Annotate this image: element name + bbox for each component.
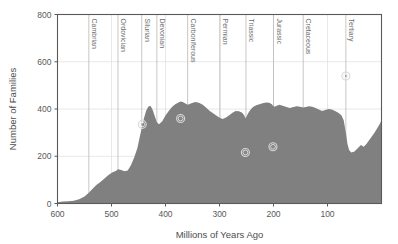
y-tick-label-200: 200	[37, 151, 51, 161]
period-label-cambrian: Cambrian	[91, 19, 98, 49]
x-tick-label-200: 200	[266, 209, 280, 219]
period-label-permian: Permian	[222, 19, 229, 45]
x-tick-label-400: 400	[158, 209, 172, 219]
y-tick-label-400: 400	[37, 104, 51, 114]
chart-canvas: CambrianOrdovicianSilurianDevonianCarbon…	[0, 0, 398, 244]
x-tick-label-600: 600	[50, 209, 64, 219]
y-tick-label-0: 0	[47, 199, 52, 209]
y-axis-title: Number of Families	[7, 68, 18, 151]
x-tick-label-500: 500	[104, 209, 118, 219]
x-tick-label-100: 100	[320, 209, 334, 219]
period-label-triassic: Triassic	[248, 19, 255, 43]
period-label-devonian: Devonian	[159, 19, 166, 49]
diversity-curve-figure: CambrianOrdovicianSilurianDevonianCarbon…	[0, 0, 398, 244]
y-tick-label-600: 600	[37, 57, 51, 67]
period-label-ordovician: Ordovician	[120, 19, 127, 53]
period-label-tertiary: Tertiary	[347, 19, 355, 42]
y-tick-label-800: 800	[37, 10, 51, 20]
period-label-carboniferous: Carboniferous	[190, 19, 197, 63]
x-axis-title: Millions of Years Ago	[176, 229, 264, 240]
period-label-jurassic: Jurassic	[276, 19, 283, 45]
x-tick-label-300: 300	[212, 209, 226, 219]
period-label-silurian: Silurian	[144, 19, 151, 42]
period-label-cretaceous: Cretaceous	[305, 19, 312, 55]
